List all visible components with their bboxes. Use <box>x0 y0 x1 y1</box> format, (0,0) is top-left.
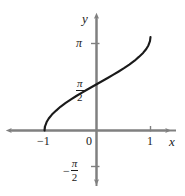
x-tick-label-1: 1 <box>147 135 153 147</box>
y-tick-label-pi: π <box>76 37 82 49</box>
x-tick-label-neg1: −1 <box>37 135 50 147</box>
y-tick-label-neg-pi-over-2: − π 2 <box>63 158 78 183</box>
y-tick-label-pi-over-2: π 2 <box>76 74 84 103</box>
plot-area <box>0 0 185 196</box>
pi-over-2-denominator: 2 <box>76 91 84 104</box>
x-axis-label: x <box>169 135 175 148</box>
arccos-graph-figure: y x π π 2 − π 2 −1 0 1 <box>0 0 185 196</box>
y-axis-label: y <box>82 12 88 25</box>
origin-label: 0 <box>86 135 92 147</box>
neg-pi-over-2-minus: − <box>63 165 70 177</box>
neg-pi-over-2-denominator: 2 <box>71 171 79 184</box>
pi-over-2-numerator: π <box>76 78 84 91</box>
neg-pi-over-2-numerator: π <box>71 158 79 171</box>
